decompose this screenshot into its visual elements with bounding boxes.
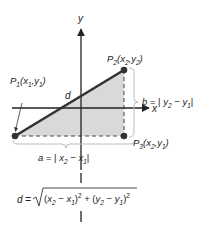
brace-b	[129, 68, 138, 137]
distance-formula-diagram: y x d P2(x2,y2) P1(x1,y1) P3(x2,y1) b = …	[0, 0, 209, 242]
p2-label: P2(x2,y2)	[107, 53, 143, 66]
side-b-label: b = | y2 − y1|	[142, 96, 193, 109]
p1-pointer-arrowhead	[14, 127, 18, 132]
distance-formula: d = (x2 − x1)2 + (y2 − y1)2	[17, 188, 137, 206]
p3-label: P3(x2,y1)	[133, 137, 169, 150]
point-p3	[121, 133, 128, 140]
y-axis-label: y	[77, 13, 84, 24]
brace-a	[13, 140, 135, 148]
side-a-label: a = | x2 − x1|	[38, 152, 89, 165]
p1-label: P1(x1,y1)	[10, 75, 46, 88]
p1-pointer-line	[16, 103, 22, 128]
point-p1	[12, 133, 19, 140]
point-p2	[121, 67, 128, 74]
formula-lhs: d =	[17, 194, 31, 205]
formula-radicand: (x2 − x1)2 + (y2 − y1)2	[44, 192, 130, 206]
hypotenuse-label: d	[65, 90, 71, 101]
